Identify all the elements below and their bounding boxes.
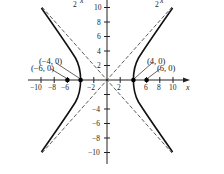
- x-tick-label: 2: [117, 83, 121, 92]
- y-tick-label: −4: [92, 105, 100, 114]
- vertex-left-point: [78, 78, 83, 83]
- label-focus-left: (−6, 0): [31, 63, 54, 73]
- x-tick-label: −8: [48, 83, 56, 92]
- asymptote-label-right-fragment: 2: [155, 0, 159, 9]
- asymptote-label-left-x: x: [79, 0, 84, 5]
- asymptote-label-right-x: x: [159, 0, 164, 5]
- vertex-right-point: [131, 78, 136, 83]
- y-tick-label: 10: [94, 3, 102, 12]
- y-tick-label: −8: [92, 134, 100, 143]
- x-axis-arrow-icon: [183, 78, 190, 83]
- y-tick-label: −10: [88, 148, 100, 157]
- x-tick-label: −2: [87, 83, 95, 92]
- asymptote-label-left-fragment: 2: [73, 0, 77, 9]
- focus-right-point: [144, 78, 149, 83]
- label-focus-right: (6, 0): [157, 63, 176, 73]
- x-axis-label: x: [185, 83, 190, 92]
- y-tick-label: 8: [97, 18, 101, 27]
- y-tick-label: 4: [97, 47, 101, 56]
- hyperbola-chart: (−4, 0) (−6, 0) (4, 0) (6, 0) −10 −8 −6 …: [0, 0, 224, 174]
- focus-left-point: [65, 78, 70, 83]
- y-tick-label: 2: [97, 61, 101, 70]
- x-tick-label: 6: [144, 83, 148, 92]
- x-tick-label: −10: [30, 83, 42, 92]
- y-tick-label: 6: [97, 32, 101, 41]
- y-tick-label: −6: [92, 119, 100, 128]
- x-tick-label: −6: [61, 83, 69, 92]
- x-tick-label: 10: [169, 83, 177, 92]
- x-tick-label: 8: [157, 83, 161, 92]
